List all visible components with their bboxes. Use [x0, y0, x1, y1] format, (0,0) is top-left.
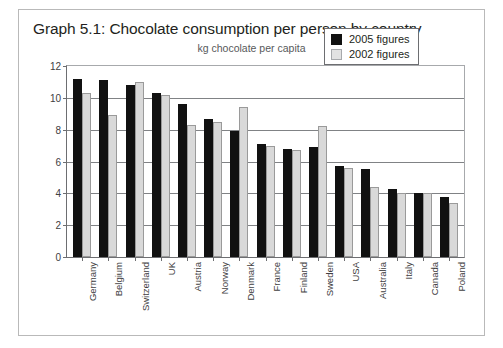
- x-label-cell: Poland: [437, 260, 463, 322]
- bar-group: [252, 66, 278, 257]
- bar-group: [436, 66, 462, 257]
- x-label-cell: Italy: [384, 260, 410, 322]
- x-label-cell: France: [252, 260, 278, 322]
- bar-belgium-2005: [99, 80, 108, 257]
- x-label-cell: Australia: [358, 260, 384, 322]
- bar-usa-2002: [344, 168, 353, 257]
- x-label-cell: Sweden: [305, 260, 331, 322]
- bar-belgium-2002: [108, 115, 117, 257]
- plot-area: 024681012: [66, 65, 465, 258]
- bar-austria-2005: [178, 104, 187, 257]
- bar-norway-2005: [204, 119, 213, 257]
- bar-group: [383, 66, 409, 257]
- bar-group: [174, 66, 200, 257]
- legend-swatch-2005: [331, 34, 342, 45]
- legend-item-2002: 2002 figures: [331, 48, 410, 60]
- bar-uk-2002: [161, 95, 170, 257]
- x-label-cell: Austria: [173, 260, 199, 322]
- y-tick-label: 0: [55, 252, 61, 263]
- y-tick-label: 12: [50, 61, 61, 72]
- bar-switzerland-2002: [135, 82, 144, 257]
- x-axis-labels: GermanyBelgiumSwitzerlandUKAustriaNorway…: [66, 260, 465, 322]
- chart-legend: 2005 figures 2002 figures: [324, 28, 419, 65]
- bar-poland-2002: [449, 203, 458, 257]
- bar-germany-2002: [82, 93, 91, 257]
- legend-label-2005: 2005 figures: [349, 33, 410, 45]
- bar-denmark-2005: [230, 131, 239, 257]
- y-tick-mark: [63, 257, 67, 258]
- bar-poland-2005: [440, 197, 449, 257]
- legend-swatch-2002: [331, 49, 342, 60]
- x-tick-label: Poland: [455, 262, 466, 292]
- bar-group: [279, 66, 305, 257]
- x-label-cell: Switzerland: [121, 260, 147, 322]
- x-label-cell: Norway: [200, 260, 226, 322]
- bar-group: [305, 66, 331, 257]
- bar-group: [148, 66, 174, 257]
- bar-australia-2002: [370, 187, 379, 257]
- bar-group: [410, 66, 436, 257]
- bar-group: [331, 66, 357, 257]
- bar-group: [226, 66, 252, 257]
- bar-group: [121, 66, 147, 257]
- x-label-cell: Canada: [410, 260, 436, 322]
- bar-uk-2005: [152, 93, 161, 257]
- bar-group: [69, 66, 95, 257]
- bar-sweden-2002: [318, 126, 327, 257]
- y-tick-label: 2: [55, 220, 61, 231]
- bar-canada-2002: [423, 193, 432, 257]
- x-label-cell: Germany: [68, 260, 94, 322]
- y-tick-label: 10: [50, 92, 61, 103]
- x-label-cell: UK: [147, 260, 173, 322]
- x-label-cell: Belgium: [94, 260, 120, 322]
- bar-norway-2002: [213, 122, 222, 257]
- bar-finland-2002: [292, 150, 301, 257]
- bar-group: [200, 66, 226, 257]
- bar-denmark-2002: [239, 107, 248, 257]
- legend-item-2005: 2005 figures: [331, 33, 410, 45]
- legend-label-2002: 2002 figures: [349, 48, 410, 60]
- bar-australia-2005: [361, 169, 370, 257]
- bar-france-2002: [266, 146, 275, 257]
- bar-usa-2005: [335, 166, 344, 257]
- x-label-cell: Denmark: [226, 260, 252, 322]
- bar-switzerland-2005: [126, 85, 135, 257]
- bar-group: [95, 66, 121, 257]
- bars-layer: [67, 66, 464, 257]
- y-tick-label: 4: [55, 188, 61, 199]
- y-tick-label: 6: [55, 156, 61, 167]
- chart-card: Graph 5.1: Chocolate consumption per per…: [18, 9, 485, 336]
- x-label-cell: Finland: [279, 260, 305, 322]
- bar-finland-2005: [283, 149, 292, 257]
- bar-canada-2005: [414, 193, 423, 257]
- bar-italy-2002: [397, 193, 406, 257]
- y-tick-label: 8: [55, 124, 61, 135]
- bar-austria-2002: [187, 125, 196, 257]
- bar-france-2005: [257, 144, 266, 257]
- bar-germany-2005: [73, 79, 82, 257]
- bar-italy-2005: [388, 189, 397, 257]
- bar-sweden-2005: [309, 147, 318, 257]
- x-label-cell: USA: [331, 260, 357, 322]
- bar-group: [357, 66, 383, 257]
